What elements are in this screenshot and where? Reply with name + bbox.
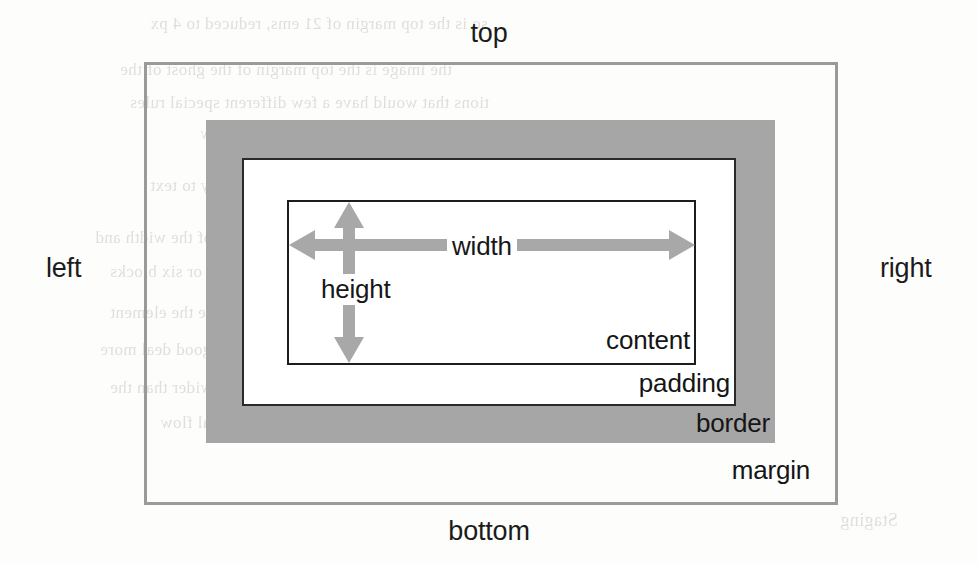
content-label: content [606, 325, 690, 356]
left-side-label: left [46, 253, 81, 284]
margin-label: margin [732, 455, 810, 486]
top-side-label: top [0, 18, 978, 49]
width-label: width [447, 231, 517, 262]
right-side-label: right [880, 253, 932, 284]
box-model-diagram-canvas: so is the top margin of 21 ems, reduced … [0, 0, 978, 564]
bottom-side-label: bottom [0, 516, 978, 547]
border-label: border [696, 408, 770, 439]
height-label: height [316, 274, 396, 305]
padding-label: padding [639, 368, 730, 399]
